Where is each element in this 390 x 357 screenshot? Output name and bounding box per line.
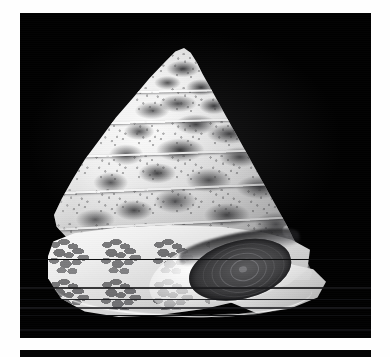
lower-black-band bbox=[20, 350, 371, 357]
specimen-label: conical top-shell specimen bbox=[0, 0, 1, 1]
specimen-photograph[interactable] bbox=[20, 13, 371, 338]
page-canvas: conical top-shell specimen bbox=[0, 0, 390, 357]
shell-specimen[interactable] bbox=[20, 13, 371, 338]
